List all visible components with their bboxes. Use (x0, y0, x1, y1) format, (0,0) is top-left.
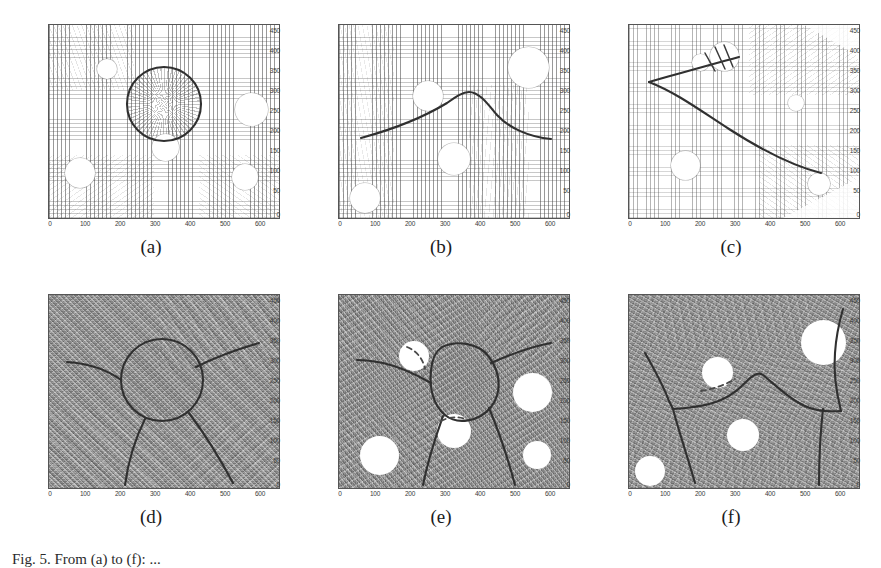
panel-a-active-contour (127, 67, 201, 141)
xtick: 200 (695, 220, 705, 227)
xtick: 500 (220, 220, 230, 227)
xtick: 200 (115, 220, 125, 227)
ytick: 250 (256, 377, 280, 384)
ytick: 250 (836, 377, 860, 384)
xtick: 500 (800, 490, 810, 497)
xtick: 0 (628, 490, 631, 497)
panel-b-active-contour (361, 92, 551, 139)
xtick: 200 (695, 490, 705, 497)
panel-e-plot-area (338, 294, 570, 489)
panel-d-branch-lower-right (189, 413, 233, 483)
ytick: 300 (256, 357, 280, 364)
ytick: 250 (836, 107, 860, 114)
panel-d-contour-overlay (49, 295, 279, 488)
xtick: 100 (80, 490, 90, 497)
xtick: 0 (338, 490, 341, 497)
panel-a-label: (a) (22, 236, 280, 258)
ytick: 150 (836, 147, 860, 154)
ytick: 300 (256, 87, 280, 94)
panel-d-plot-area (48, 294, 280, 489)
xtick: 300 (150, 220, 160, 227)
ytick: 150 (836, 417, 860, 424)
ytick: 100 (256, 167, 280, 174)
panel-c-label: (c) (602, 236, 860, 258)
figure-caption: Fig. 5. From (a) to (f): ... (12, 551, 881, 568)
ytick: 100 (836, 167, 860, 174)
ytick: 400 (836, 317, 860, 324)
panel-b: 450 400 350 300 250 200 150 100 50 0 0 1… (312, 20, 570, 260)
ytick: 300 (546, 357, 570, 364)
xtick: 200 (405, 220, 415, 227)
ytick: 450 (836, 297, 860, 304)
xtick: 400 (475, 220, 485, 227)
xtick: 300 (730, 490, 740, 497)
panel-d-branch-left (67, 362, 121, 380)
panel-f-dashed-segment (701, 379, 735, 391)
xtick: 600 (255, 220, 265, 227)
xtick: 200 (115, 490, 125, 497)
ytick: 0 (256, 211, 280, 218)
xtick: 400 (185, 220, 195, 227)
xtick: 0 (628, 220, 631, 227)
panel-e: 450 400 350 300 250 200 150 100 50 0 0 1… (312, 290, 570, 530)
ytick: 200 (256, 397, 280, 404)
xtick: 500 (510, 490, 520, 497)
xtick: 100 (370, 220, 380, 227)
xtick: 100 (660, 220, 670, 227)
ytick: 400 (256, 47, 280, 54)
ytick: 450 (836, 27, 860, 34)
xtick: 0 (338, 220, 341, 227)
ytick: 50 (546, 187, 570, 194)
panel-c-contour-overlay (629, 25, 859, 218)
ytick: 350 (836, 67, 860, 74)
ytick: 200 (256, 127, 280, 134)
panel-e-branch-lower-right (489, 408, 515, 485)
panel-e-contour-overlay (339, 295, 569, 488)
ytick: 150 (546, 417, 570, 424)
ytick: 0 (256, 481, 280, 488)
panel-e-dashed-arc-1 (407, 347, 425, 369)
xtick: 300 (440, 490, 450, 497)
ytick: 350 (256, 67, 280, 74)
xtick: 400 (185, 490, 195, 497)
xtick: 500 (800, 220, 810, 227)
panel-f-contour-overlay (629, 295, 859, 488)
xtick: 600 (835, 220, 845, 227)
ytick: 100 (546, 167, 570, 174)
ytick: 100 (836, 437, 860, 444)
ytick: 300 (546, 87, 570, 94)
xtick: 400 (765, 220, 775, 227)
panel-a-contour-overlay (49, 25, 279, 218)
panel-f-lower-left-branch (673, 409, 695, 483)
panel-e-label: (e) (312, 506, 570, 528)
ytick: 50 (836, 457, 860, 464)
panel-d-branch-upper-right (196, 343, 259, 367)
panel-f-label: (f) (602, 506, 860, 528)
xtick: 500 (510, 220, 520, 227)
panel-f: 450 400 350 300 250 200 150 100 50 0 0 1… (602, 290, 860, 530)
ytick: 200 (836, 397, 860, 404)
xtick: 300 (730, 220, 740, 227)
ytick: 250 (256, 107, 280, 114)
xtick: 600 (255, 490, 265, 497)
xtick: 0 (48, 490, 51, 497)
ytick: 150 (256, 417, 280, 424)
ytick: 400 (546, 47, 570, 54)
panel-c-lower-branch (649, 82, 821, 173)
ytick: 350 (256, 337, 280, 344)
ytick: 450 (546, 297, 570, 304)
panel-f-plot-area (628, 294, 860, 489)
panel-c-crosshatch-1 (715, 47, 725, 69)
panel-b-label: (b) (312, 236, 570, 258)
ytick: 50 (836, 187, 860, 194)
xtick: 100 (80, 220, 90, 227)
xtick: 600 (545, 490, 555, 497)
ytick: 150 (256, 147, 280, 154)
ytick: 200 (546, 127, 570, 134)
ytick: 400 (836, 47, 860, 54)
panel-c-crosshatch-2 (724, 45, 733, 67)
ytick: 0 (836, 211, 860, 218)
ytick: 250 (546, 377, 570, 384)
ytick: 400 (256, 317, 280, 324)
panel-f-right-descending (819, 409, 823, 485)
